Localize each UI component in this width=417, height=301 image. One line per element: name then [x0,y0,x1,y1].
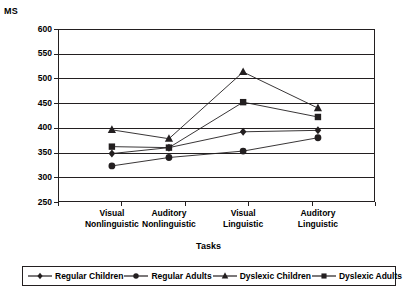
x-axis-category-label-line: Auditory [131,208,207,219]
gridline [59,54,374,55]
x-axis-tick-mark [312,202,313,206]
legend-item[interactable]: Regular Children [27,270,123,282]
y-axis-tick-label: 400 [22,122,52,132]
y-axis-tick-label: 450 [22,98,52,108]
x-axis-tick-mark [121,202,122,206]
x-axis-category-label-line: Linguistic [280,219,356,230]
gridline [59,128,374,129]
y-axis-tick-label: 600 [22,24,52,34]
y-axis-tick-label: 350 [22,147,52,157]
x-axis-tick-mark [375,202,376,206]
legend-item[interactable]: Regular Adults [123,270,211,282]
legend-marker-circle-icon [123,270,149,282]
x-axis-category-label: AuditoryNonlinguistic [131,208,207,229]
y-axis-tick-label: 300 [22,172,52,182]
legend-marker-diamond-icon [27,270,53,282]
x-axis-tick-mark [185,202,186,206]
legend-item[interactable]: Dyslexic Children [212,270,311,282]
x-axis-category-label: AuditoryLinguistic [280,208,356,229]
gridline [59,103,374,104]
x-axis-tick-mark [248,202,249,206]
gridline [59,153,374,154]
legend-item[interactable]: Dyslexic Adults [311,270,402,282]
x-axis-category-label-line: Nonlinguistic [131,219,207,230]
plot-area [58,29,375,202]
legend-item-label: Dyslexic Children [240,271,311,281]
x-axis-category-label-line: Visual [205,208,281,219]
x-axis-category-label-line: Auditory [280,208,356,219]
line-chart: MS 600550500450400350300250 VisualNonlin… [0,0,417,301]
x-axis-tick-mark [58,202,59,206]
gridline [59,78,374,79]
y-axis-tick-label: 550 [22,48,52,58]
x-axis-category-label-line: Linguistic [205,219,281,230]
legend-item-label: Regular Adults [151,271,211,281]
gridline [59,177,374,178]
chart-legend: Regular ChildrenRegular AdultsDyslexic C… [22,266,396,286]
y-axis-title: MS [4,6,18,16]
legend-item-label: Dyslexic Adults [339,271,402,281]
x-axis-category-label: VisualLinguistic [205,208,281,229]
legend-marker-square-icon [311,270,337,282]
legend-item-label: Regular Children [55,271,123,281]
y-axis-tick-label: 250 [22,197,52,207]
x-axis-title: Tasks [0,241,417,251]
y-axis-tick-label: 500 [22,73,52,83]
legend-marker-triangle-icon [212,270,238,282]
